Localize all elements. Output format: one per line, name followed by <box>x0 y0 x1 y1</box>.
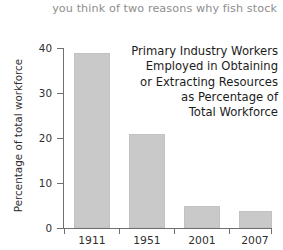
x-tick-label-2001: 2001 <box>174 234 230 247</box>
y-tick-mark-30 <box>57 93 63 94</box>
y-tick-label-20: 20 <box>24 133 52 143</box>
y-tick-mark-40 <box>57 48 63 49</box>
y-axis-title: Percentage of total workforce <box>13 46 24 226</box>
chart-title-line-4: as Percentage of <box>122 90 278 105</box>
bar-2001 <box>184 206 220 229</box>
chart-title-line-1: Primary Industry Workers <box>122 44 278 59</box>
chart-title: Primary Industry Workers Employed in Obt… <box>122 44 278 120</box>
bar-1951 <box>129 134 165 229</box>
bar-1911 <box>74 53 110 229</box>
bar-chart-figure: Percentage of total workforce 40 30 20 1… <box>0 0 283 250</box>
x-tick-label-2007: 2007 <box>227 234 283 247</box>
bar-2007 <box>239 211 272 228</box>
y-tick-mark-20 <box>57 138 63 139</box>
y-tick-mark-0 <box>57 228 63 229</box>
y-tick-mark-10 <box>57 183 63 184</box>
y-tick-label-40: 40 <box>24 43 52 53</box>
y-tick-label-30: 30 <box>24 88 52 98</box>
figure-page: you think of two reasons why fish stock … <box>0 0 283 250</box>
x-tick-label-1951: 1951 <box>119 234 175 247</box>
y-tick-label-0: 0 <box>24 223 52 233</box>
y-tick-label-10: 10 <box>24 178 52 188</box>
chart-title-line-2: Employed in Obtaining <box>122 59 278 74</box>
x-axis-line <box>63 228 272 229</box>
chart-title-line-3: or Extracting Resources <box>122 75 278 90</box>
x-tick-label-1911: 1911 <box>64 234 120 247</box>
chart-title-line-5: Total Workforce <box>122 105 278 120</box>
